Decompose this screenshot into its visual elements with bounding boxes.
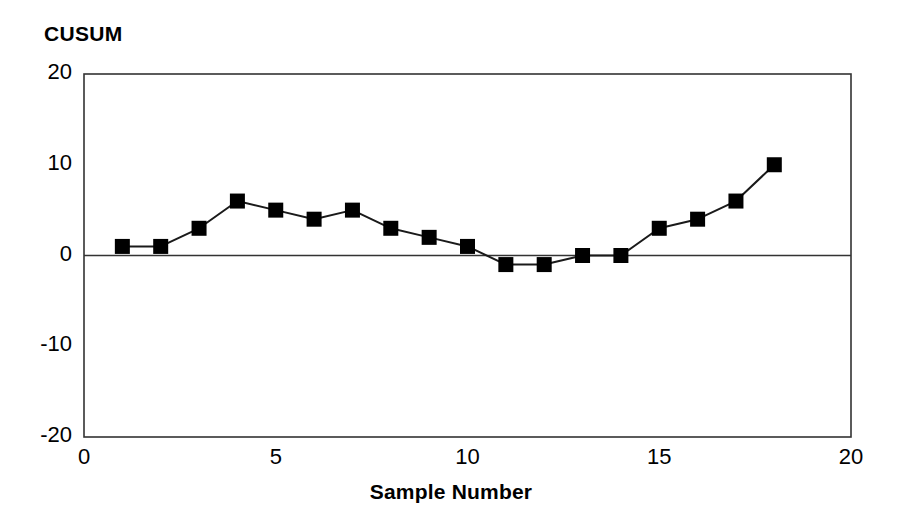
x-tick-label-10: 10 (438, 444, 498, 470)
chart-figure: CUSUM 20100-10-20 05101520 Sample Number (0, 0, 902, 528)
y-tick-label-10: 10 (12, 150, 72, 176)
y-tick-label-neg10: -10 (12, 331, 72, 357)
data-point-marker (613, 248, 628, 263)
data-point-marker (345, 203, 360, 218)
y-tick-label-0: 0 (12, 241, 72, 267)
x-tick-label-0: 0 (54, 444, 114, 470)
data-point-marker (383, 221, 398, 236)
data-point-marker (422, 230, 437, 245)
data-point-marker (537, 257, 552, 272)
x-tick-label-5: 5 (246, 444, 306, 470)
data-point-marker (460, 239, 475, 254)
data-point-marker (575, 248, 590, 263)
data-point-marker (230, 194, 245, 209)
data-point-marker (652, 221, 667, 236)
x-axis-title: Sample Number (0, 480, 902, 504)
data-point-marker (115, 239, 130, 254)
y-tick-label-20: 20 (12, 59, 72, 85)
x-tick-label-15: 15 (629, 444, 689, 470)
data-point-marker (153, 239, 168, 254)
data-point-marker (690, 212, 705, 227)
data-point-marker (192, 221, 207, 236)
data-point-marker (767, 157, 782, 172)
x-tick-label-20: 20 (821, 444, 881, 470)
data-point-marker (268, 203, 283, 218)
series-line (122, 165, 774, 265)
data-point-marker (728, 194, 743, 209)
data-point-marker (498, 257, 513, 272)
data-point-marker (307, 212, 322, 227)
